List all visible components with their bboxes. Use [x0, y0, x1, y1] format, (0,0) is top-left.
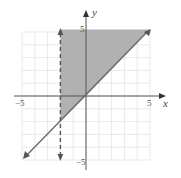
- x-max-label: 5: [147, 98, 152, 108]
- x-axis-label: x: [162, 97, 168, 109]
- y-min-label: −5: [76, 157, 86, 167]
- x-min-label: −5: [15, 98, 25, 108]
- inequality-graph: −5 5 5 −5 x y: [0, 0, 181, 178]
- y-max-label: 5: [80, 24, 85, 34]
- y-axis-label: y: [91, 6, 97, 18]
- y-axis-arrow-icon: [83, 10, 89, 17]
